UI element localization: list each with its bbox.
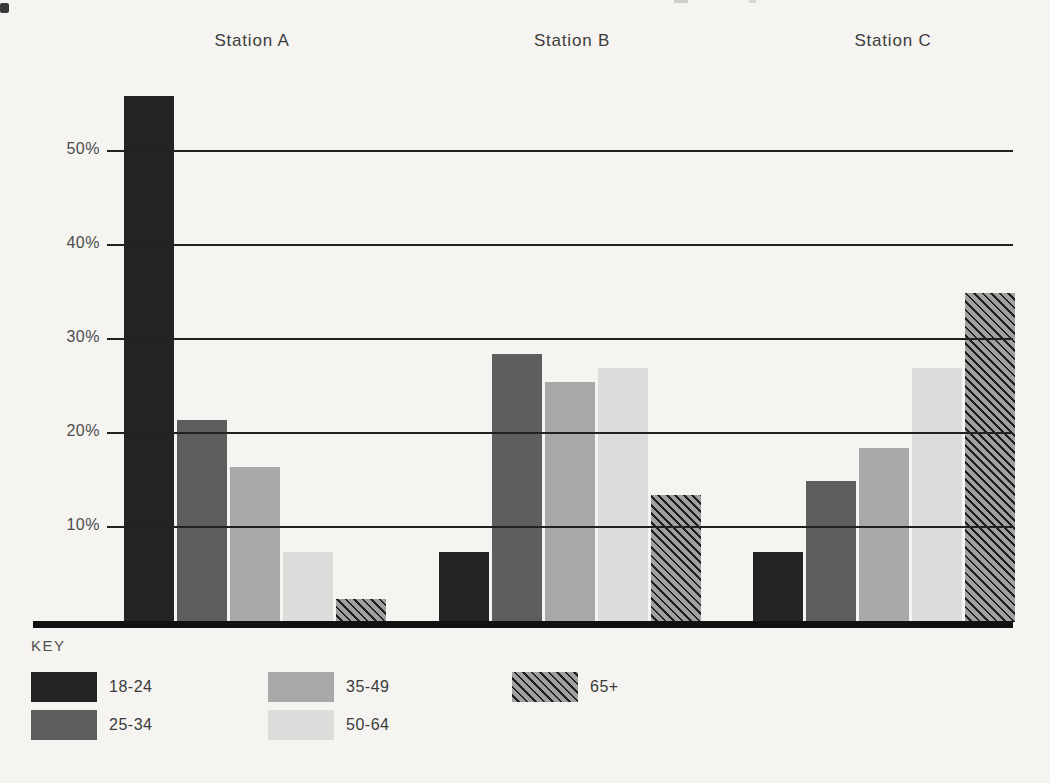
gridline-50% (107, 150, 1013, 152)
legend-swatch-50-64 (268, 710, 334, 740)
scan-artifact (749, 0, 756, 3)
bar-station-c-35-49 (859, 448, 909, 622)
bar-station-c-25-34 (806, 481, 856, 622)
scan-artifact (0, 3, 9, 13)
y-tick-label-20%: 20% (38, 422, 100, 440)
legend-label-50-64: 50-64 (346, 716, 389, 734)
chart-plot-area: 50%40%30%20%10% (0, 0, 1050, 783)
gridline-20% (107, 432, 1013, 434)
y-tick-label-10%: 10% (38, 516, 100, 534)
y-tick-label-50%: 50% (38, 140, 100, 158)
legend-label-35-49: 35-49 (346, 678, 389, 696)
legend-label-65-plus: 65+ (590, 678, 619, 696)
bar-station-b-50-64 (598, 368, 648, 622)
gridline-40% (107, 244, 1013, 246)
bar-station-a-35-49 (230, 467, 280, 622)
bar-station-c-18-24 (753, 552, 803, 623)
gridline-10% (107, 526, 1013, 528)
y-tick-label-30%: 30% (38, 328, 100, 346)
legend-swatch-18-24 (31, 672, 97, 702)
gridline-30% (107, 338, 1013, 340)
bar-station-b-65plus (651, 495, 701, 622)
x-axis-baseline (33, 621, 1013, 628)
legend-swatch-65-plus (512, 672, 578, 702)
bar-station-b-35-49 (545, 382, 595, 622)
bar-station-c-50-64 (912, 368, 962, 622)
legend-item-18-24: 18-24 (31, 672, 152, 702)
bar-station-c-65plus (965, 293, 1015, 622)
legend-item-50-64: 50-64 (268, 710, 389, 740)
bar-station-a-50-64 (283, 552, 333, 623)
bar-station-a-18-24 (124, 96, 174, 622)
legend-item-65-plus: 65+ (512, 672, 619, 702)
legend-swatch-25-34 (31, 710, 97, 740)
legend-title: KEY (31, 637, 66, 654)
scanned-bar-chart-page: Station A Station B Station C 50%40%30%2… (0, 0, 1050, 783)
bar-station-a-25-34 (177, 420, 227, 622)
bar-station-a-65plus (336, 599, 386, 623)
legend-item-25-34: 25-34 (31, 710, 152, 740)
legend-label-25-34: 25-34 (109, 716, 152, 734)
legend-swatch-35-49 (268, 672, 334, 702)
bar-station-b-18-24 (439, 552, 489, 623)
legend-item-35-49: 35-49 (268, 672, 389, 702)
bar-station-b-25-34 (492, 354, 542, 622)
legend-label-18-24: 18-24 (109, 678, 152, 696)
y-tick-label-40%: 40% (38, 234, 100, 252)
scan-artifact (674, 0, 688, 3)
